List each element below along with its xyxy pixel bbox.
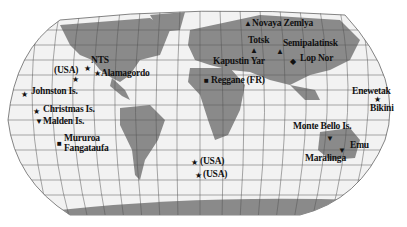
nts-star-icon: ★ bbox=[84, 65, 91, 73]
label-usa-atlantic-2: (USA) bbox=[203, 170, 227, 180]
label-reggane: Reggane (FR) bbox=[211, 76, 265, 86]
christmas-star-icon: ★ bbox=[33, 108, 40, 116]
label-christmas: Christmas Is. bbox=[43, 105, 95, 115]
reggane-square-icon: ■ bbox=[204, 77, 209, 85]
label-emu: Emu bbox=[350, 141, 369, 151]
label-johnston: Johnston Is. bbox=[31, 87, 78, 97]
label-totsk: Totsk bbox=[248, 36, 269, 46]
usa-atlantic-2-star-icon: ★ bbox=[195, 172, 202, 180]
label-lop-nor: Lop Nor bbox=[300, 54, 333, 64]
label-novaya-zemlya: Novaya Zemlya bbox=[252, 19, 313, 29]
label-fangataufa: Fangataufa bbox=[64, 144, 108, 154]
monte-bello-triangle-icon: ▼ bbox=[326, 135, 334, 143]
label-nts: NTS bbox=[91, 56, 109, 66]
malden-triangle-icon: ▼ bbox=[35, 118, 43, 126]
label-maralinga: Maralinga bbox=[305, 154, 346, 164]
label-bikini: Bikini bbox=[370, 104, 394, 114]
label-semipalatinsk: Semipalatinsk bbox=[283, 39, 338, 49]
lop-nor-diamond-icon: ◆ bbox=[290, 58, 296, 66]
totsk-triangle-icon: ▲ bbox=[250, 47, 258, 55]
johnston-star-icon: ★ bbox=[21, 91, 28, 99]
mururoa-square-icon: ■ bbox=[57, 140, 62, 148]
label-kapustin-yar: Kapustin Yar bbox=[213, 57, 265, 67]
label-enewetak: Enewetak bbox=[352, 87, 391, 97]
label-usa-atlantic-1: (USA) bbox=[200, 157, 224, 167]
label-malden: Malden Is. bbox=[43, 117, 84, 127]
alamagordo-star-icon: ★ bbox=[94, 70, 101, 78]
usa-atlantic-1-star-icon: ★ bbox=[191, 159, 198, 167]
usa-north-star-icon: ★ bbox=[72, 76, 79, 84]
semipalatinsk-triangle-icon: ▲ bbox=[276, 48, 284, 56]
novaya-zemlya-triangle-icon: ▲ bbox=[244, 20, 252, 28]
label-monte-bello: Monte Bello Is. bbox=[293, 122, 351, 132]
label-alamagordo: Alamagordo bbox=[101, 69, 150, 79]
